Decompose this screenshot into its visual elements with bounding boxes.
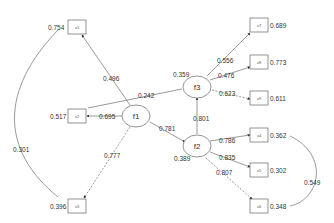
edge-f2-x6 [206,158,252,199]
residual-x4: 0.362 [270,132,287,139]
svg-text:f1: f1 [133,112,140,121]
svg-text:f3: f3 [194,83,201,92]
observed-x1: x1 0.754 [48,20,86,34]
residual-x1: 0.754 [48,24,65,31]
path-f2-f3: 0.801 [193,115,210,122]
residual-x7: 0.689 [270,22,287,29]
covariance-x4-x6-label: 0.549 [304,179,321,186]
loading-f1-x3: 0.777 [104,152,121,159]
residual-f3: 0.359 [173,71,190,78]
edge-f1-x1 [82,35,130,105]
loading-f3-x7: 0.556 [217,57,234,64]
observed-x8: x8 0.773 [250,55,287,69]
observed-x9: x9 0.611 [250,91,286,105]
covariance-x4-x6 [290,136,316,206]
loading-f1-x2: 0.695 [99,113,116,120]
svg-text:f2: f2 [194,142,201,151]
residual-x9: 0.611 [270,95,286,102]
loading-f3-x9: 0.623 [219,90,236,97]
observed-x2: x2 0.517 [50,109,86,123]
loading-f2-x6: 0.807 [216,169,233,176]
edge-f1-x3 [84,127,130,198]
edge-f3-x7 [207,33,250,76]
residual-x8: 0.773 [270,59,287,66]
path-f1-f3: 0.242 [138,92,155,99]
observed-x7: x7 0.689 [250,18,287,32]
residual-x2: 0.517 [50,113,67,120]
observed-x4: x4 0.362 [250,128,287,142]
loading-f2-x5: 0.835 [219,154,236,161]
loading-f2-x4: 0.786 [219,137,236,144]
loading-f3-x8: 0.476 [218,72,235,79]
path-f1-f2: 0.781 [159,125,176,132]
residual-f2: 0.389 [174,155,191,162]
loading-f1-x1: 0.496 [103,75,120,82]
observed-x6: x6 0.348 [250,199,287,213]
latent-f2: f2 [183,135,211,157]
observed-x5: x5 0.302 [250,163,287,177]
latent-f3: f3 [183,76,211,98]
residual-x5: 0.302 [270,167,287,174]
residual-x6: 0.348 [270,203,287,210]
latent-f1: f1 [122,105,150,127]
observed-x3: x3 0.396 [50,199,86,213]
path-diagram: 0.301 0.549 0.496 0.695 0.777 0.242 0.78… [0,0,334,223]
residual-x3: 0.396 [50,203,67,210]
covariance-x1-x3-label: 0.301 [13,146,30,153]
